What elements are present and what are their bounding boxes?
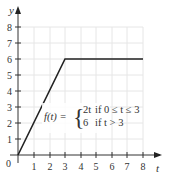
piece1-expr: 2t	[83, 104, 91, 115]
axes	[10, 10, 160, 163]
y-tick-label: 4	[7, 86, 12, 97]
x-axis-label: t	[156, 162, 160, 174]
y-tick-label: 3	[7, 102, 12, 113]
x-axis-arrow-icon	[154, 152, 162, 158]
origin-label: 0	[6, 158, 11, 169]
formula-annotation: f(t) = { 2t if 0 ≤ t ≤ 3 6 if t > 3	[42, 103, 139, 133]
x-tick-label: 7	[125, 161, 130, 172]
y-tick-label: 2	[7, 118, 12, 129]
x-tick-label: 5	[94, 161, 99, 172]
x-tick-label: 4	[79, 161, 84, 172]
y-axis-arrow-icon	[15, 6, 21, 14]
piecewise-function-chart: 1 2 3 4 5 6 7 8 1 2 3 4 5 6 7 8 0 y t f(…	[0, 0, 173, 179]
y-tick-labels: 1 2 3 4 5 6 7 8	[7, 22, 12, 145]
x-tick-label: 1	[32, 161, 37, 172]
y-tick-label: 5	[7, 70, 12, 81]
grid	[18, 27, 143, 155]
y-axis-label: y	[8, 4, 14, 16]
x-tick-labels: 1 2 3 4 5 6 7 8	[32, 161, 146, 172]
y-tick-label: 1	[7, 134, 12, 145]
y-tick-label: 8	[7, 22, 12, 33]
y-tick-label: 7	[7, 38, 12, 49]
x-tick-label: 3	[63, 161, 68, 172]
function-name: f(t) =	[44, 111, 67, 123]
piece1-cond: if 0 ≤ t ≤ 3	[95, 104, 139, 115]
piece2-cond: if t > 3	[95, 117, 123, 128]
piece2-expr: 6	[83, 117, 88, 128]
y-tick-label: 6	[7, 54, 12, 65]
x-tick-label: 6	[110, 161, 115, 172]
x-tick-label: 2	[48, 161, 53, 172]
x-tick-label: 8	[141, 161, 146, 172]
